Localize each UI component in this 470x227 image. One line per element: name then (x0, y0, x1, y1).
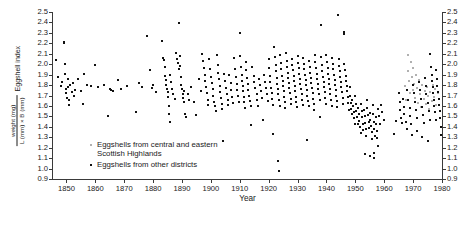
legend-item-highlands: Eggshells from central and eastern Scott… (90, 140, 217, 158)
y-tick-label-left: 1.7 (37, 92, 48, 100)
data-point (168, 113, 170, 115)
data-point (207, 104, 209, 106)
data-point (277, 88, 279, 90)
y-tick-label-right: 1.1 (447, 154, 458, 162)
data-point (399, 101, 401, 103)
data-point (220, 97, 222, 99)
y-tick-label-right: 1.8 (447, 81, 458, 89)
y-tick-label-left: 1.8 (37, 81, 48, 89)
x-tick (413, 180, 414, 183)
data-point (300, 88, 302, 90)
data-point (167, 96, 169, 98)
x-tick-label: 1890 (174, 185, 191, 193)
data-point (316, 78, 318, 80)
x-tick-label: 1980 (434, 185, 451, 193)
data-point (429, 91, 431, 93)
data-point (248, 95, 250, 97)
data-point (168, 105, 170, 107)
data-point (90, 85, 92, 87)
data-point (185, 116, 187, 118)
data-point (319, 116, 321, 118)
data-point (230, 82, 232, 84)
data-point (340, 81, 342, 83)
data-point (339, 70, 341, 72)
data-point (297, 55, 299, 57)
data-point (365, 135, 367, 137)
legend-item-other: Eggshells from other districts (90, 160, 217, 169)
y-tick-label-right: 1.4 (447, 123, 458, 131)
data-point (357, 107, 359, 109)
data-point (439, 117, 441, 119)
data-point (403, 113, 405, 115)
data-point (358, 113, 360, 115)
data-point (317, 83, 319, 85)
data-point (309, 72, 311, 74)
data-point (355, 103, 357, 105)
data-point (369, 155, 371, 157)
data-point (293, 75, 295, 77)
data-point (371, 138, 373, 140)
data-point (282, 85, 284, 87)
data-point (424, 90, 426, 92)
data-point (218, 78, 220, 80)
x-tick (442, 180, 443, 183)
y-tick-right (443, 137, 446, 138)
data-point (135, 111, 137, 113)
data-point (227, 99, 229, 101)
data-point (176, 58, 178, 60)
data-point (411, 134, 413, 136)
y-tick-right (443, 179, 446, 180)
data-point (223, 73, 225, 75)
data-point (323, 81, 325, 83)
data-point (82, 103, 84, 105)
data-point (251, 66, 253, 68)
data-point (316, 73, 318, 75)
data-point (171, 88, 173, 90)
y-tick-label-left: 2.0 (37, 60, 48, 68)
x-tick-label: 1850 (58, 185, 75, 193)
data-point (270, 87, 272, 89)
data-point (126, 85, 128, 87)
data-point (268, 58, 270, 60)
data-point (363, 109, 365, 111)
data-point (289, 92, 291, 94)
data-point (343, 33, 345, 35)
y-axis-title-fraction: weight (mg) L (mm) × B (mm) (10, 95, 25, 146)
y-tick-label-left: 1.1 (37, 154, 48, 162)
data-point (281, 75, 283, 77)
data-point (77, 78, 79, 80)
data-point (401, 122, 403, 124)
data-point (280, 62, 282, 64)
y-axis-left-line (52, 12, 53, 180)
data-point (257, 105, 259, 107)
data-point (282, 80, 284, 82)
data-point (350, 108, 352, 110)
data-point (265, 87, 267, 89)
data-point (427, 95, 429, 97)
data-point (351, 113, 353, 115)
data-point (294, 90, 296, 92)
data-point (354, 95, 356, 97)
data-point (425, 93, 427, 95)
data-point (303, 63, 305, 65)
data-point (330, 99, 332, 101)
data-point (295, 101, 297, 103)
data-point (226, 93, 228, 95)
data-point (284, 107, 286, 109)
data-point (340, 86, 342, 88)
data-point (278, 99, 280, 101)
data-point (63, 42, 65, 44)
data-point (360, 132, 362, 134)
data-point (209, 68, 211, 70)
data-point (312, 98, 314, 100)
data-point (219, 91, 221, 93)
data-point (298, 67, 300, 69)
data-point (170, 81, 172, 83)
y-tick-left (49, 22, 52, 23)
data-point (183, 90, 185, 92)
y-tick-label-right: 2.5 (447, 8, 458, 16)
data-point (295, 96, 297, 98)
data-point (263, 74, 265, 76)
data-point (336, 106, 338, 108)
data-point (86, 84, 88, 86)
